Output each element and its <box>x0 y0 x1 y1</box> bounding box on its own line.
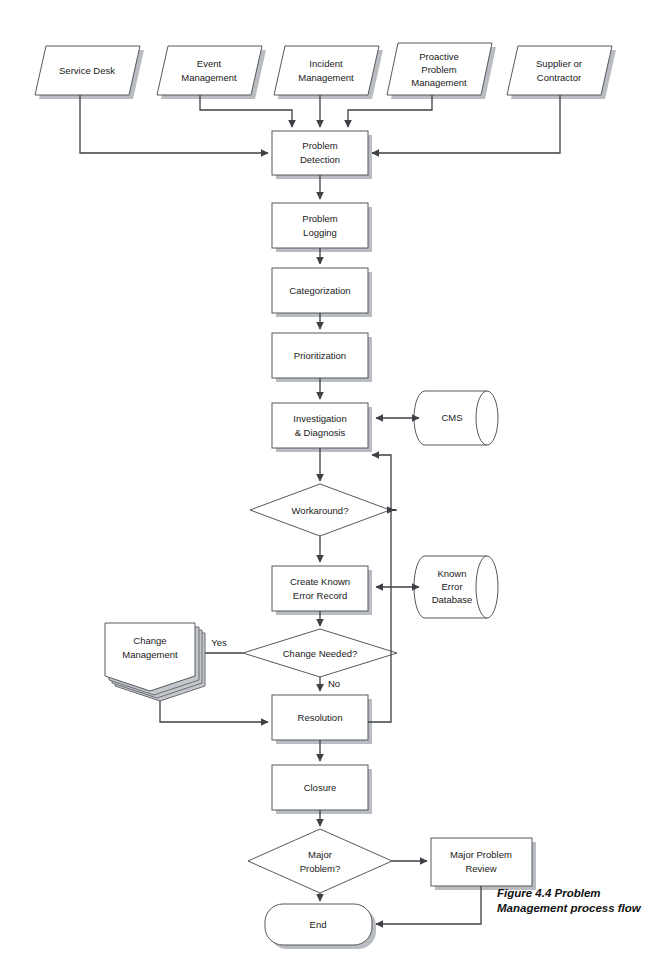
node-change-management[interactable]: Change Management <box>105 623 205 701</box>
node-label-proactive-2: Problem <box>421 64 456 75</box>
node-major-problem[interactable]: Major Problem? <box>248 829 392 893</box>
node-supplier-or-contractor[interactable]: Supplier or Contractor <box>507 46 616 99</box>
node-label-categorization: Categorization <box>289 285 350 296</box>
node-label-supplier-2: Contractor <box>537 72 581 83</box>
node-label-incident-management-2: Management <box>298 72 354 83</box>
node-workaround[interactable]: Workaround? <box>250 484 390 536</box>
node-categorization[interactable]: Categorization <box>272 268 372 317</box>
edge-label-yes: Yes <box>211 637 227 648</box>
figure-caption-text: Figure 4.4 Problem Management process fl… <box>497 887 641 914</box>
node-label-resolution: Resolution <box>298 712 343 723</box>
node-label-event-management-2: Management <box>181 72 237 83</box>
node-label-create-known-error-2: Error Record <box>293 590 347 601</box>
node-label-major-problem-review-1: Major Problem <box>450 849 512 860</box>
node-label-cms: CMS <box>441 412 462 423</box>
node-label-change-needed: Change Needed? <box>283 648 357 659</box>
node-proactive-problem-management[interactable]: Proactive Problem Management <box>387 43 496 99</box>
node-label-problem-logging-1: Problem <box>302 213 337 224</box>
node-label-major-problem-2: Problem? <box>300 863 341 874</box>
node-label-incident-management-1: Incident <box>309 58 343 69</box>
node-change-needed[interactable]: Change Needed? <box>243 629 397 677</box>
node-problem-logging[interactable]: Problem Logging <box>272 203 372 252</box>
node-label-service-desk: Service Desk <box>59 65 115 76</box>
node-label-proactive-1: Proactive <box>419 51 459 62</box>
node-label-known-error-db-3: Database <box>432 594 473 605</box>
node-label-event-management-1: Event <box>197 58 222 69</box>
node-end[interactable]: End <box>265 904 376 949</box>
node-service-desk[interactable]: Service Desk <box>35 46 144 99</box>
node-label-known-error-db-1: Known <box>437 568 466 579</box>
node-label-workaround: Workaround? <box>292 505 349 516</box>
node-investigation-diagnosis[interactable]: Investigation & Diagnosis <box>272 403 372 452</box>
node-incident-management[interactable]: Incident Management <box>274 46 383 99</box>
node-major-problem-review[interactable]: Major Problem Review <box>431 838 536 890</box>
connector-review-to-end <box>376 886 481 924</box>
node-label-major-problem-1: Major <box>308 849 332 860</box>
node-label-change-management-2: Management <box>122 649 178 660</box>
node-label-known-error-db-2: Error <box>441 581 462 592</box>
node-label-create-known-error-1: Create Known <box>290 576 350 587</box>
node-event-management[interactable]: Event Management <box>157 46 266 99</box>
node-label-investigation-2: & Diagnosis <box>295 427 346 438</box>
connector-service-desk-to-problem-detection <box>80 95 268 153</box>
connector-proactive-to-problem-detection <box>348 95 432 127</box>
node-label-supplier-1: Supplier or <box>536 58 582 69</box>
node-prioritization[interactable]: Prioritization <box>272 333 372 382</box>
node-label-closure: Closure <box>304 782 337 793</box>
node-label-major-problem-review-2: Review <box>465 863 496 874</box>
node-label-problem-logging-2: Logging <box>303 227 337 238</box>
node-label-proactive-3: Management <box>411 77 467 88</box>
node-label-problem-detection-1: Problem <box>302 140 337 151</box>
node-problem-detection[interactable]: Problem Detection <box>272 131 372 179</box>
node-label-prioritization: Prioritization <box>294 350 346 361</box>
figure-caption: Figure 4.4 Problem Management process fl… <box>497 886 647 917</box>
node-cms[interactable]: CMS <box>414 391 498 445</box>
node-label-problem-detection-2: Detection <box>300 154 340 165</box>
connector-supplier-to-problem-detection <box>372 95 560 153</box>
flowchart-canvas: Service Desk Event Management Incident M… <box>0 0 657 964</box>
node-known-error-database[interactable]: Known Error Database <box>414 556 498 618</box>
node-create-known-error-record[interactable]: Create Known Error Record <box>272 566 372 615</box>
node-resolution[interactable]: Resolution <box>272 695 372 744</box>
connector-change-management-to-resolution <box>160 701 268 722</box>
node-label-investigation-1: Investigation <box>293 413 346 424</box>
edge-label-no: No <box>328 678 340 689</box>
node-label-change-management-1: Change <box>133 635 166 646</box>
node-label-end: End <box>310 919 327 930</box>
connector-event-management-to-problem-detection <box>200 95 292 127</box>
node-closure[interactable]: Closure <box>272 765 372 814</box>
